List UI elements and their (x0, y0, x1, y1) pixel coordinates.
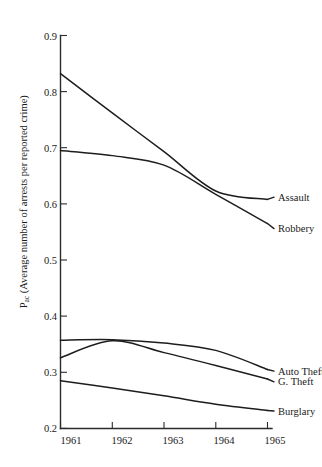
series-label-layer: AssaultRobberyAuto TheftG. TheftBurglary (268, 192, 322, 417)
series-label-robbery: Robbery (278, 223, 315, 234)
leader-line-g-theft (268, 379, 275, 382)
y-axis-title-symbol: P (18, 303, 29, 309)
leader-line-assault (268, 197, 275, 199)
y-tick-label-0.4: 0.4 (44, 311, 58, 322)
x-tick-group (61, 422, 268, 429)
y-tick-label-0.6: 0.6 (44, 199, 57, 210)
x-tick-label-1962: 1962 (112, 435, 133, 446)
x-tick-label-1965: 1965 (265, 435, 286, 446)
y-axis-title-rest: (Average number of arrests per reported … (18, 95, 29, 296)
leader-line-burglary (268, 410, 275, 411)
leader-line-auto-theft (268, 369, 275, 371)
y-axis-title-subscript: ac (22, 296, 31, 303)
series-label-auto-theft: Auto Theft (278, 366, 322, 377)
x-tick-label-1963: 1963 (163, 435, 184, 446)
y-axis-title: Pac (Average number of arrests per repor… (18, 82, 30, 322)
y-tick-label-0.8: 0.8 (44, 87, 57, 98)
series-label-assault: Assault (278, 192, 310, 203)
y-tick-labels: 0.9 0.8 0.7 0.6 0.5 0.4 0.3 0.2 (44, 31, 58, 435)
y-tick-label-0.5: 0.5 (44, 255, 57, 266)
series-line-g-theft (61, 341, 268, 379)
figure-root: 0.9 0.8 0.7 0.6 0.5 0.4 0.3 0.2 1961 196… (0, 0, 322, 467)
series-label-g-theft: G. Theft (278, 376, 313, 387)
x-tick-label-1964: 1964 (214, 435, 236, 446)
x-tick-label-1961: 1961 (61, 435, 82, 446)
line-chart: 0.9 0.8 0.7 0.6 0.5 0.4 0.3 0.2 1961 196… (0, 0, 322, 467)
leader-line-robbery (268, 224, 275, 229)
y-tick-label-0.3: 0.3 (44, 367, 57, 378)
y-tick-label-0.2: 0.2 (44, 423, 57, 434)
series-line-auto-theft (61, 340, 268, 370)
series-label-burglary: Burglary (278, 406, 316, 417)
axes-group (61, 36, 273, 429)
y-tick-label-0.9: 0.9 (44, 31, 57, 42)
series-line-burglary (61, 381, 268, 411)
x-tick-labels: 1961 1962 1963 1964 1965 (61, 435, 286, 446)
series-line-robbery (61, 151, 268, 224)
series-layer (61, 74, 268, 411)
y-tick-label-0.7: 0.7 (44, 143, 57, 154)
series-line-assault (61, 74, 268, 200)
y-tick-group (61, 36, 68, 429)
